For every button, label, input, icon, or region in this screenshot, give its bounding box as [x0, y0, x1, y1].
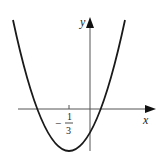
x-axis-label: x [142, 113, 149, 127]
tick-label-sign: − [55, 117, 61, 129]
y-axis [86, 17, 94, 151]
y-axis-label: y [79, 15, 86, 29]
tick-label-numerator: 1 [67, 111, 72, 122]
parabola-plot: y x − 1 3 [0, 0, 157, 163]
x-axis-arrow-icon [145, 105, 156, 113]
tick-label-minus-one-third: − 1 3 [55, 111, 73, 136]
tick-label-denominator: 3 [66, 125, 71, 136]
y-axis-arrow-icon [86, 17, 94, 28]
